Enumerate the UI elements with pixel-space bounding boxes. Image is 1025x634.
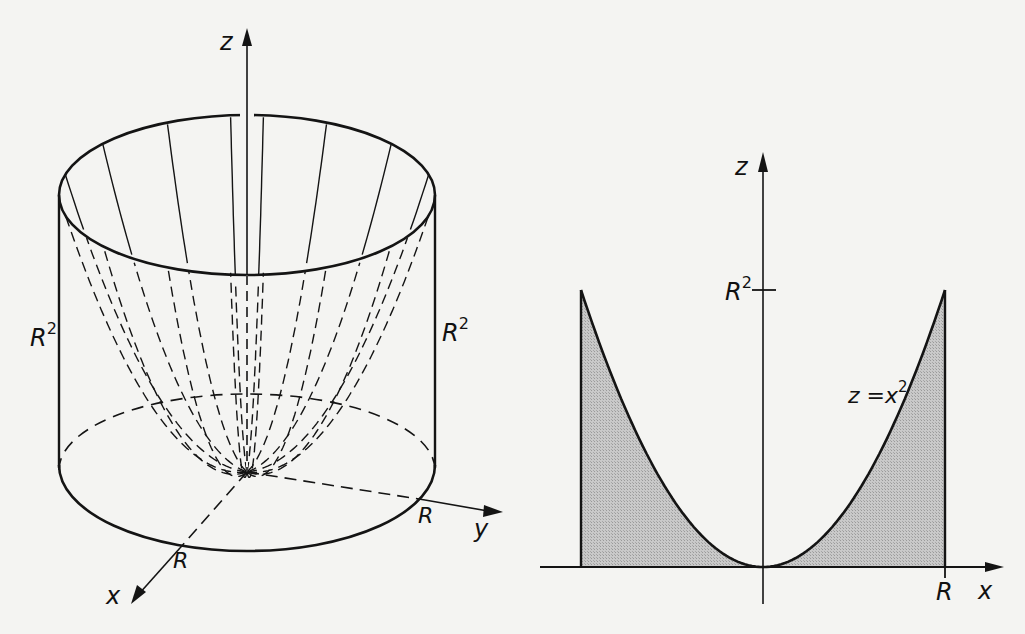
shaded-region-right [763,290,945,567]
z-axis-label-2d: z [734,153,749,181]
r-tick-label: R [936,578,953,606]
height-label-right: R2 [442,314,469,347]
meridian-curve [103,245,247,474]
meridian-curve [134,263,247,472]
x-axis-label-3d: x [105,582,121,610]
x-axis-line-3d [180,472,247,548]
meridian-curve [247,245,391,474]
meridian-curve [168,124,188,263]
curve-equation-label: z =x2 [847,378,908,408]
y-axis-label-3d: y [473,515,489,543]
meridian-curve [236,282,248,472]
meridian-curve [247,263,360,472]
paraboloid-figure: z x y R2 R2 R R [30,28,503,610]
cross-section-figure: z x R R2 z =x2 [540,152,1004,606]
meridian-curve [247,282,259,472]
cylinder-base-front-edge [59,465,435,551]
y-axis-line-3d [247,472,425,500]
meridian-curve [307,124,327,263]
z-axis-arrowhead-3d [242,28,252,46]
meridian-curve [247,271,305,472]
x-axis-label-2d: x [977,577,993,605]
shaded-region-left [581,290,763,567]
meridian-curve [231,117,236,274]
meridian-curve [189,271,247,472]
diagram-canvas: z x y R2 R2 R R z x R R2 z =x2 [0,0,1025,634]
height-label-left: R2 [30,319,57,352]
meridian-curve [259,117,264,274]
radius-label-y: R [418,503,433,528]
radius-label-x: R [173,548,188,573]
r2-tick-label: R2 [725,273,752,306]
meridian-curve [103,145,132,255]
z-axis-arrowhead-2d [758,152,768,172]
z-axis-label-3d: z [219,28,234,56]
x-axis-arrowhead-2d [985,562,1004,572]
meridian-curve [362,145,391,255]
